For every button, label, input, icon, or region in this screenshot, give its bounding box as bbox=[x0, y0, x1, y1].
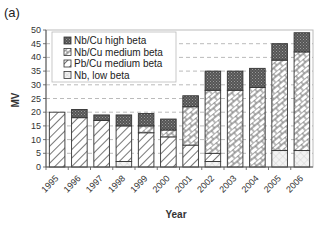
x-tick-label: 2005 bbox=[262, 173, 283, 194]
y-tick-label: 25 bbox=[31, 94, 41, 104]
bar-segment bbox=[205, 71, 221, 90]
x-tick-label: 1998 bbox=[106, 173, 127, 194]
legend-entry: Nb/Cu high beta bbox=[74, 35, 147, 46]
bar-segment bbox=[183, 107, 199, 145]
bar-segment bbox=[294, 33, 310, 52]
bar-segment bbox=[138, 114, 154, 126]
bar-segment bbox=[94, 115, 110, 120]
stacked-bar-chart: 1995199619971998199920002001200220032004… bbox=[0, 0, 325, 226]
y-tick-label: 40 bbox=[31, 52, 41, 62]
bar-segment bbox=[72, 118, 88, 167]
bar-segment bbox=[294, 52, 310, 151]
bar-1998 bbox=[116, 115, 132, 167]
bar-segment bbox=[161, 119, 177, 130]
bar-segment bbox=[183, 96, 199, 107]
x-axis-label: Year bbox=[165, 209, 186, 220]
bar-segment bbox=[72, 109, 88, 117]
legend-swatch bbox=[64, 60, 71, 67]
bar-segment bbox=[205, 153, 221, 161]
x-tick-label: 2006 bbox=[284, 173, 305, 194]
y-tick-label: 0 bbox=[36, 162, 41, 172]
bar-segment bbox=[272, 44, 288, 60]
bar-segment bbox=[94, 120, 110, 167]
x-tick-label: 1997 bbox=[84, 173, 105, 194]
x-tick-label: 2002 bbox=[195, 173, 216, 194]
legend-entry: Pb/Cu medium beta bbox=[74, 58, 163, 69]
bar-2005 bbox=[272, 44, 288, 167]
bar-1995 bbox=[49, 112, 65, 167]
legend-swatch bbox=[64, 72, 71, 79]
legend-swatch bbox=[64, 37, 71, 44]
y-tick-label: 30 bbox=[31, 80, 41, 90]
bar-segment bbox=[227, 90, 243, 167]
bar-segment bbox=[116, 126, 132, 162]
bar-segment bbox=[250, 88, 266, 167]
bar-segment bbox=[116, 115, 132, 126]
y-tick-label: 10 bbox=[31, 135, 41, 145]
bar-segment bbox=[294, 151, 310, 167]
bar-1997 bbox=[94, 115, 110, 167]
bar-1996 bbox=[72, 109, 88, 167]
bar-1999 bbox=[138, 114, 154, 167]
bar-2002 bbox=[205, 71, 221, 167]
bar-segment bbox=[138, 133, 154, 167]
bar-2006 bbox=[294, 33, 310, 167]
x-tick-label: 2000 bbox=[151, 173, 172, 194]
legend-swatch bbox=[64, 49, 71, 56]
bar-segment bbox=[272, 60, 288, 150]
x-tick-label: 2003 bbox=[217, 173, 238, 194]
legend-entry: Nb, low beta bbox=[74, 70, 130, 81]
bar-segment bbox=[250, 68, 266, 87]
bar-segment bbox=[227, 71, 243, 90]
y-tick-label: 50 bbox=[31, 25, 41, 35]
bar-segment bbox=[49, 112, 65, 167]
bar-segment bbox=[161, 137, 177, 167]
x-tick-label: 1995 bbox=[39, 173, 60, 194]
y-tick-label: 35 bbox=[31, 66, 41, 76]
bar-segment bbox=[205, 90, 221, 153]
bar-segment bbox=[138, 126, 154, 133]
bar-segment bbox=[272, 151, 288, 167]
x-tick-label: 2001 bbox=[173, 173, 194, 194]
bar-2001 bbox=[183, 96, 199, 167]
x-tick-label: 1999 bbox=[128, 173, 149, 194]
bar-2004 bbox=[250, 68, 266, 167]
y-tick-label: 20 bbox=[31, 107, 41, 117]
legend-entry: Nb/Cu medium beta bbox=[74, 47, 163, 58]
bar-segment bbox=[116, 162, 132, 167]
bar-segment bbox=[205, 162, 221, 167]
y-tick-label: 5 bbox=[36, 148, 41, 158]
y-tick-label: 45 bbox=[31, 39, 41, 49]
x-tick-label: 2004 bbox=[240, 173, 261, 194]
bar-segment bbox=[161, 130, 177, 137]
y-tick-label: 15 bbox=[31, 121, 41, 131]
legend: Nb/Cu high betaNb/Cu medium betaPb/Cu me… bbox=[52, 32, 176, 82]
bar-segment bbox=[183, 145, 199, 167]
x-tick-label: 1996 bbox=[62, 173, 83, 194]
bar-2000 bbox=[161, 119, 177, 167]
bar-2003 bbox=[227, 71, 243, 167]
y-axis-label: MV bbox=[10, 92, 21, 107]
